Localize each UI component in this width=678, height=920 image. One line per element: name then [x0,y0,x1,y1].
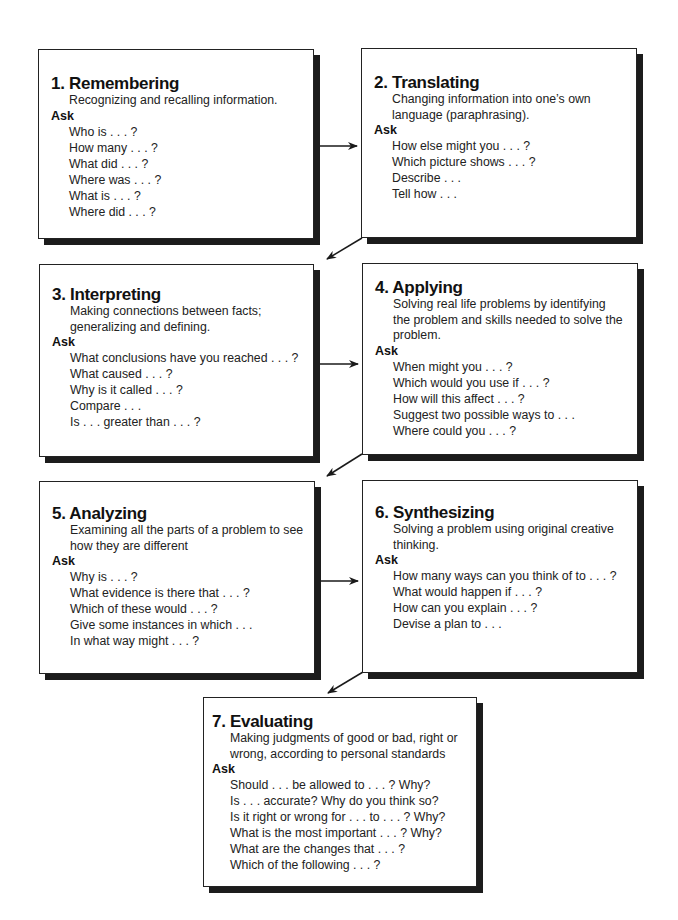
question-item: What is the most important . . . ? Why? [230,825,468,841]
question-item: What did . . . ? [69,156,305,172]
box-description: problem. [393,328,629,344]
question-item: Is . . . accurate? Why do you think so? [230,793,468,809]
box-description: thinking. [393,538,629,554]
question-item: How else might you . . . ? [392,138,628,154]
question-item: What are the changes that . . . ? [230,841,468,857]
box-translating: 2. Translating Changing information into… [361,48,637,238]
question-item: In what way might . . . ? [70,633,306,649]
question-item: Which of these would . . . ? [70,601,306,617]
box-description: the problem and skills needed to solve t… [393,313,629,329]
question-item: When might you . . . ? [393,359,629,375]
question-item: Should . . . be allowed to . . . ? Why? [230,777,468,793]
question-item: What evidence is there that . . . ? [70,585,306,601]
question-item: What caused . . . ? [70,366,305,382]
box-title: 3. Interpreting [52,285,305,304]
ask-label: Ask [375,553,629,568]
question-item: Is . . . greater than . . . ? [70,414,305,430]
box-description: language (paraphrasing). [392,108,628,124]
question-item: Where could you . . . ? [393,423,629,439]
question-item: Which would you use if . . . ? [393,375,629,391]
question-item: Why is it called . . . ? [70,382,305,398]
question-item: Give some instances in which . . . [70,617,306,633]
box-description: how they are different [70,539,306,555]
box-title: 2. Translating [374,73,628,92]
box-interpreting: 3. Interpreting Making connections betwe… [39,264,314,457]
box-description: Making connections between facts; [70,304,305,320]
box-description: wrong, according to personal standards [230,747,468,763]
box-title: 1. Remembering [51,74,305,93]
box-analyzing: 5. Analyzing Examining all the parts of … [39,481,315,674]
question-item: Describe . . . [392,170,628,186]
question-item: How can you explain . . . ? [393,600,629,616]
question-item: What conclusions have you reached . . . … [70,350,305,366]
box-title: 5. Analyzing [52,504,306,523]
box-title: 6. Synthesizing [375,503,629,522]
arrow-2-to-3 [327,238,362,259]
question-item: Tell how . . . [392,186,628,202]
question-item: How many . . . ? [69,140,305,156]
question-item: What would happen if . . . ? [393,584,629,600]
ask-label: Ask [52,335,305,350]
box-evaluating: 7. Evaluating Making judgments of good o… [203,697,477,887]
box-description: Solving real life problems by identifyin… [393,297,629,313]
box-title: 7. Evaluating [212,712,468,731]
box-description: Recognizing and recalling information. [69,93,305,109]
ask-label: Ask [52,554,306,569]
box-synthesizing: 6. Synthesizing Solving a problem using … [362,480,638,673]
question-item: Is it right or wrong for . . . to . . . … [230,809,468,825]
box-applying: 4. Applying Solving real life problems b… [362,263,638,455]
ask-label: Ask [51,109,305,124]
question-item: Where was . . . ? [69,172,305,188]
arrow-6-to-7 [328,672,363,693]
question-item: Where did . . . ? [69,204,305,220]
box-description: Making judgments of good or bad, right o… [230,731,468,747]
ask-label: Ask [212,762,468,777]
question-item: Who is . . . ? [69,124,305,140]
question-item: Why is . . . ? [70,569,306,585]
box-description: Changing information into one’s own [392,92,628,108]
ask-label: Ask [374,123,628,138]
question-item: Devise a plan to . . . [393,616,629,632]
question-item: Suggest two possible ways to . . . [393,407,629,423]
question-item: How many ways can you think of to . . . … [393,568,629,584]
question-item: What is . . . ? [69,188,305,204]
question-item: Which picture shows . . . ? [392,154,628,170]
box-description: Examining all the parts of a problem to … [70,523,306,539]
box-remembering: 1. Remembering Recognizing and recalling… [38,49,314,239]
box-title: 4. Applying [375,278,629,297]
box-description: Solving a problem using original creativ… [393,522,629,538]
ask-label: Ask [375,344,629,359]
box-description: generalizing and defining. [70,320,305,336]
question-item: Compare . . . [70,398,305,414]
arrow-4-to-5 [327,454,362,476]
question-item: How will this affect . . . ? [393,391,629,407]
question-item: Which of the following . . . ? [230,857,468,873]
